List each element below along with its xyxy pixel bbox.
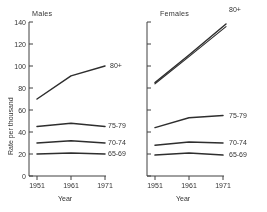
x-axis-title: Year (176, 195, 190, 202)
series-label-65-69: 65-69 (229, 151, 247, 158)
xtick-label-1971: 1971 (209, 182, 237, 189)
xtick-label-1971: 1971 (91, 182, 119, 189)
xtick-label-1951: 1951 (23, 182, 51, 189)
series-line-80plus (37, 66, 105, 99)
series-line-70-74 (155, 142, 223, 145)
series-line-75-79 (37, 123, 105, 126)
series-label-75-79: 75-79 (229, 112, 247, 119)
series-label-70-74: 70-74 (229, 139, 247, 146)
series-label-70-74: 70-74 (108, 139, 126, 146)
series-line-65-69 (37, 153, 105, 154)
series-line-80plus-secondary (155, 27, 226, 84)
series-line-80plus (155, 24, 226, 83)
series-line-65-69 (155, 153, 223, 155)
ytick-label-120: 120 (4, 41, 26, 48)
series-label-75-79: 75-79 (108, 122, 126, 129)
ytick-label-80: 80 (4, 85, 26, 92)
xtick-label-1961: 1961 (57, 182, 85, 189)
series-label-80plus: 80+ (229, 6, 241, 13)
panel-title-males: Males (32, 9, 52, 18)
xtick-label-1951: 1951 (141, 182, 169, 189)
y-axis-title: Rate per thousand (7, 97, 14, 155)
series-line-70-74 (37, 141, 105, 143)
panel-title-females: Females (160, 9, 189, 18)
ytick-label-0: 0 (4, 173, 26, 180)
panel-males: Males 140 120 100 80 60 40 20 0 Rate per… (0, 0, 134, 212)
ytick-label-100: 100 (4, 63, 26, 70)
ytick-label-140: 140 (4, 19, 26, 26)
series-line-75-79 (155, 116, 223, 128)
series-label-65-69: 65-69 (108, 150, 126, 157)
series-label-80plus: 80+ (110, 62, 122, 69)
figure-two-panel-line-chart: Males 140 120 100 80 60 40 20 0 Rate per… (0, 0, 267, 212)
x-axis-title: Year (58, 195, 72, 202)
xtick-label-1961: 1961 (175, 182, 203, 189)
panel-females: Females (133, 0, 267, 212)
